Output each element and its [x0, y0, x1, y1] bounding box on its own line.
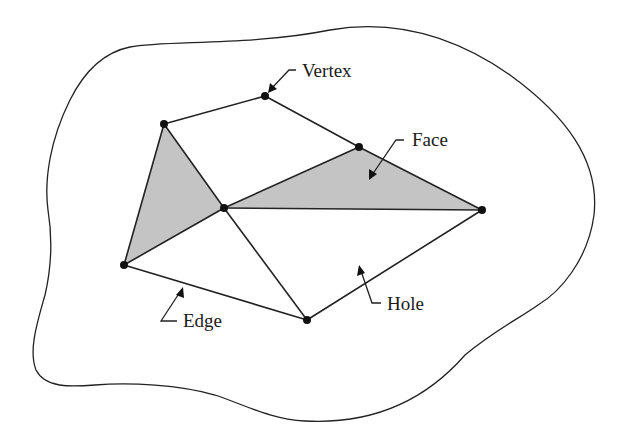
region-boundary [33, 27, 595, 422]
vertex-dot [355, 143, 363, 151]
face-left-triangle [124, 124, 224, 265]
vertex-callout: Vertex [268, 60, 352, 93]
vertex-dot [303, 316, 311, 324]
vertex-dot [220, 204, 228, 212]
hole-label: Hole [387, 293, 424, 314]
edge-label: Edge [183, 310, 222, 331]
edge-v5-v7 [224, 208, 307, 320]
edge-v1-v2 [164, 96, 265, 124]
hole-callout: Hole [357, 265, 424, 314]
edge-pointer-line [161, 292, 180, 321]
face-right-triangle [224, 147, 482, 210]
vertex-dot [160, 120, 168, 128]
vertex-dot [261, 92, 269, 100]
face-label: Face [412, 129, 448, 150]
edge-v2-v3 [265, 96, 359, 147]
edge-callout: Edge [161, 287, 222, 331]
vertex-pointer-line [272, 70, 296, 88]
mesh-diagram: Vertex Face Hole Edge [0, 0, 624, 446]
arrow-icon [357, 265, 365, 276]
vertex-dot [478, 206, 486, 214]
vertex-label: Vertex [302, 60, 352, 81]
vertex-dot [120, 261, 128, 269]
